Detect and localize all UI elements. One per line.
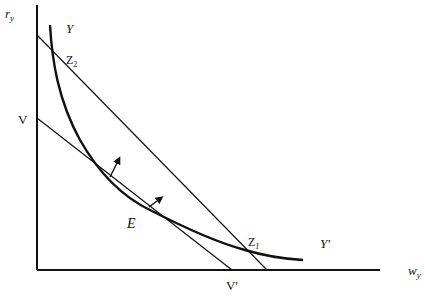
- point-label-e: E: [126, 216, 136, 231]
- y-axis-label: ry: [5, 6, 14, 23]
- shift-arrow-upper: [110, 159, 119, 177]
- upper-cost-line: [37, 35, 267, 270]
- x-axis-label: wy: [408, 263, 421, 280]
- diagram-canvas: ry wy Y Y' Z2 Z1 V V' E: [0, 0, 425, 298]
- isoquant-curve: [50, 25, 303, 260]
- point-label-v: V: [18, 112, 28, 127]
- isoquant-label-y-prime: Y': [320, 236, 330, 251]
- point-label-z2: Z2: [66, 53, 77, 69]
- isoquant-label-y: Y: [66, 21, 75, 36]
- shift-arrow-lower: [149, 198, 161, 207]
- point-label-z1: Z1: [248, 235, 259, 251]
- lower-cost-line: [37, 118, 232, 270]
- point-label-v-prime: V': [226, 278, 238, 293]
